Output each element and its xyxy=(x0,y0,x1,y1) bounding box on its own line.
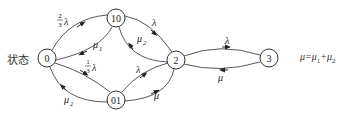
arrow-01-to-0-icon xyxy=(62,86,66,90)
label-10-to-2: λ xyxy=(151,17,157,28)
svg-text:1: 1 xyxy=(99,45,102,52)
svg-text:1: 1 xyxy=(86,58,90,66)
node-01: 01 xyxy=(107,91,125,109)
edge-10-to-2 xyxy=(125,16,172,52)
svg-text:λ: λ xyxy=(63,16,69,27)
svg-text:3: 3 xyxy=(58,21,62,29)
label-2-to-10: μ 2 xyxy=(136,33,147,46)
label-3-to-2: μ xyxy=(217,72,223,83)
svg-text:λ: λ xyxy=(91,62,97,73)
svg-text:10: 10 xyxy=(111,13,121,24)
svg-text:λ: λ xyxy=(135,64,141,75)
mu-formula: μ=μ1+μ2 xyxy=(300,51,336,65)
svg-text:2: 2 xyxy=(143,39,147,46)
svg-text:2: 2 xyxy=(70,100,74,107)
svg-text:01: 01 xyxy=(111,95,121,106)
edge-2-to-3 xyxy=(184,49,260,56)
svg-text:0: 0 xyxy=(45,53,50,64)
svg-text:λ: λ xyxy=(224,35,230,46)
label-2-to-3: λ xyxy=(224,35,230,46)
label-01-to-0: μ 2 xyxy=(63,94,74,107)
node-10: 10 xyxy=(107,9,125,27)
label-2-to-01: μ xyxy=(153,90,159,101)
svg-text:3: 3 xyxy=(86,67,90,75)
edge-01-to-2 xyxy=(122,63,168,92)
svg-text:μ: μ xyxy=(217,72,223,83)
edge-10-to-0 xyxy=(56,27,112,60)
label-0-to-10: 2 3 λ xyxy=(57,12,69,29)
label-0-to-01: 1 3 λ xyxy=(85,58,97,75)
svg-text:μ: μ xyxy=(92,39,98,50)
svg-text:μ: μ xyxy=(153,90,159,101)
state-diagram: 2 3 λ μ 1 1 3 λ μ 2 λ μ 2 λ μ λ μ 0 10 xyxy=(0,0,345,117)
edge-2-to-01 xyxy=(125,69,174,101)
node-0: 0 xyxy=(38,49,56,67)
label-01-to-2: λ xyxy=(135,64,141,75)
svg-text:λ: λ xyxy=(151,17,157,28)
node-2: 2 xyxy=(167,51,185,69)
svg-text:2: 2 xyxy=(174,55,179,66)
svg-text:3: 3 xyxy=(267,53,272,64)
svg-text:μ: μ xyxy=(136,33,142,44)
node-3: 3 xyxy=(260,49,278,67)
svg-text:μ: μ xyxy=(63,94,69,105)
edge-3-to-2 xyxy=(184,62,260,69)
svg-text:2: 2 xyxy=(58,12,62,20)
